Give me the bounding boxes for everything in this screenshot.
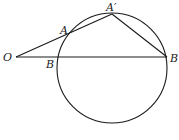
circle <box>57 13 167 123</box>
label-a-prime: A′ <box>105 1 117 14</box>
label-o: O <box>3 51 12 64</box>
label-b-near: B <box>45 58 54 71</box>
label-a: A <box>59 24 68 37</box>
geometry-diagram: O A A′ B B <box>0 0 179 140</box>
label-b-far: B <box>169 52 178 65</box>
